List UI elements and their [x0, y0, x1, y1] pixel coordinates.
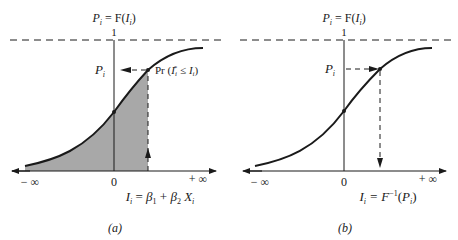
- intercept-point: [112, 110, 116, 114]
- curve-point: [146, 68, 150, 72]
- y-axis-label: Pi = F(Ii): [321, 11, 365, 27]
- cdf-diagram: Pi = F(Ii) 1 Pi Pr (Ii* ≤ Ii) − ∞ 0 + ∞ …: [0, 0, 458, 240]
- index-formula: Ii = β1 + β2 Xi: [125, 189, 195, 206]
- origin-label: 0: [111, 175, 117, 189]
- pos-infinity-label: + ∞: [189, 172, 207, 186]
- asymptote-label: 1: [111, 26, 117, 38]
- inverse-formula: Ii = F−1(Pi): [358, 189, 416, 206]
- pi-label: Pi: [324, 61, 335, 78]
- pos-infinity-label: + ∞: [419, 172, 437, 186]
- neg-infinity-label: − ∞: [251, 175, 269, 189]
- down-arrow-icon: [377, 158, 383, 168]
- y-axis-label: Pi = F(Ii): [91, 11, 135, 27]
- probability-annotation: Pr (Ii* ≤ Ii): [155, 64, 199, 78]
- panel-a: Pi = F(Ii) 1 Pi Pr (Ii* ≤ Ii) − ∞ 0 + ∞ …: [10, 11, 222, 235]
- neg-infinity-label: − ∞: [21, 175, 39, 189]
- left-arrow-icon: [120, 67, 131, 73]
- caption-a: (a): [108, 221, 122, 235]
- pi-label: Pi: [94, 62, 105, 79]
- shaded-probability-area: [25, 70, 148, 171]
- caption-b: (b): [338, 221, 352, 235]
- panel-b: Pi = F(Ii) 1 Pi − ∞ 0 + ∞ Ii = F−1(Pi) (…: [240, 11, 452, 235]
- intercept-point: [342, 109, 346, 113]
- asymptote-label: 1: [341, 26, 347, 38]
- origin-label: 0: [341, 175, 347, 189]
